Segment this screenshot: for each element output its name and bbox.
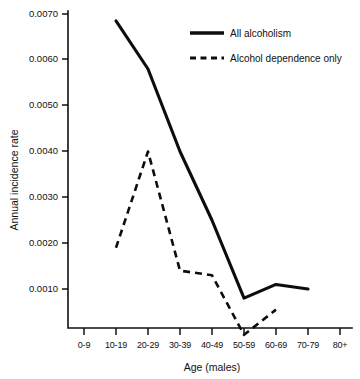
x-tick-label-2: 20-29 bbox=[137, 340, 159, 350]
chart-legend: All alcoholism Alcohol dependence only bbox=[190, 28, 342, 64]
legend-label-all-alcoholism: All alcoholism bbox=[230, 28, 291, 39]
x-tick-label-3: 30-39 bbox=[169, 340, 191, 350]
legend-label-alcohol-dependence-only: Alcohol dependence only bbox=[230, 53, 342, 64]
y-tick-label-5: 0.0060 bbox=[29, 53, 58, 64]
x-axis-tick-labels: 0-9 10-19 20-29 30-39 40-49 50-59 60-69 … bbox=[78, 340, 348, 350]
x-tick-label-7: 70-79 bbox=[297, 340, 319, 350]
x-tick-label-4: 40-49 bbox=[201, 340, 223, 350]
x-tick-label-6: 60-69 bbox=[265, 340, 287, 350]
x-tick-label-1: 10-19 bbox=[105, 340, 127, 350]
y-tick-label-3: 0.0040 bbox=[29, 145, 58, 156]
x-axis-title: Age (males) bbox=[184, 361, 241, 373]
chart-canvas: 0.0070 0.0060 0.0050 0.0040 0.0030 0.002… bbox=[0, 0, 360, 379]
y-axis-title: Annual incidence rate bbox=[8, 129, 20, 230]
y-tick-label-0: 0.0010 bbox=[29, 283, 58, 294]
y-tick-label-1: 0.0020 bbox=[29, 237, 58, 248]
incidence-rate-line-chart: 0.0070 0.0060 0.0050 0.0040 0.0030 0.002… bbox=[0, 0, 360, 379]
series-line-alcohol-dependence-only bbox=[116, 152, 276, 335]
y-tick-label-6: 0.0070 bbox=[29, 8, 58, 19]
x-tick-label-8: 80+ bbox=[333, 340, 348, 350]
y-tick-label-4: 0.0050 bbox=[29, 99, 58, 110]
x-tick-label-5: 50-59 bbox=[233, 340, 255, 350]
x-axis-ticks bbox=[84, 328, 340, 335]
y-axis-tick-labels: 0.0070 0.0060 0.0050 0.0040 0.0030 0.002… bbox=[29, 8, 58, 294]
y-tick-label-2: 0.0030 bbox=[29, 191, 58, 202]
y-axis-ticks bbox=[62, 14, 68, 289]
x-tick-label-0: 0-9 bbox=[78, 340, 91, 350]
